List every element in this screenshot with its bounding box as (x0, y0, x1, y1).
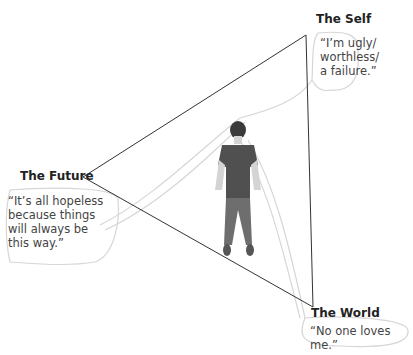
quote-self: “I’m ugly/ worthless/ a failure.” (320, 36, 379, 78)
woman-figure-icon (215, 121, 261, 256)
quote-world: “No one loves me.” (310, 324, 413, 352)
thought-bubbles (6, 32, 408, 346)
quote-future: “It’s all hopeless because things will a… (8, 194, 103, 250)
label-world: The World (311, 306, 380, 320)
label-self: The Self (316, 12, 371, 26)
label-future: The Future (20, 169, 94, 183)
triad-triangle (83, 35, 313, 307)
